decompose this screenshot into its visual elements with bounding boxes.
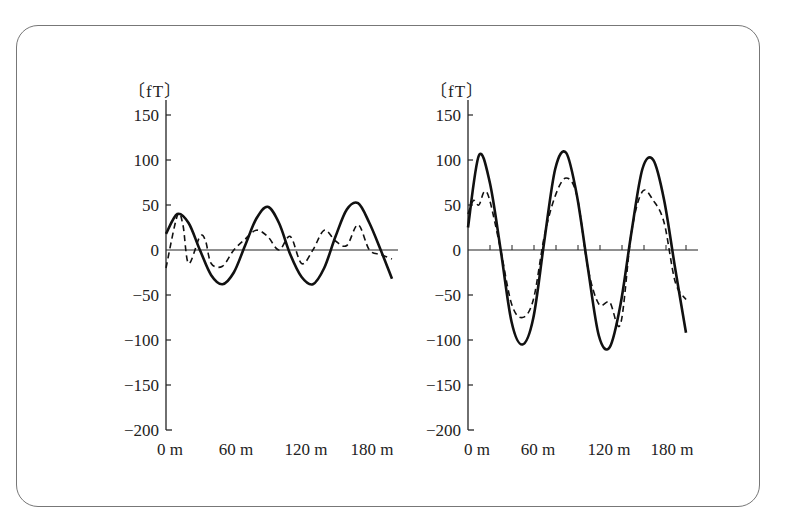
y-tick-label: −150: [124, 376, 159, 395]
y-tick-label: −100: [426, 331, 461, 350]
right-chart: 〔fT〕150100500−50−100−150−2000 m60 m120 m…: [426, 82, 698, 459]
y-tick-label: −200: [426, 421, 461, 440]
y-tick-label: 150: [436, 106, 462, 125]
left-chart: 〔fT〕150100500−50−100−150−2000 m60 m120 m…: [124, 82, 398, 459]
y-tick-label: 50: [142, 196, 159, 215]
x-tick-label: 120 m: [588, 440, 631, 459]
y-tick-label: 150: [134, 106, 160, 125]
x-tick-label: 120 m: [285, 440, 328, 459]
y-tick-label: 100: [134, 151, 160, 170]
x-tick-label: 60 m: [219, 440, 253, 459]
y-unit-label: 〔fT〕: [430, 82, 484, 101]
y-tick-label: −100: [124, 331, 159, 350]
chart-canvas: 〔fT〕150100500−50−100−150−2000 m60 m120 m…: [0, 0, 791, 532]
y-unit-label: 〔fT〕: [128, 82, 182, 101]
y-tick-label: −50: [434, 286, 461, 305]
y-tick-label: −200: [124, 421, 159, 440]
solid-line-series: [166, 202, 392, 284]
x-tick-label: 0 m: [464, 440, 490, 459]
x-tick-label: 60 m: [521, 440, 555, 459]
y-tick-label: −50: [132, 286, 159, 305]
y-tick-label: 50: [444, 196, 461, 215]
x-tick-label: 180 m: [651, 440, 694, 459]
x-tick-label: 0 m: [157, 440, 183, 459]
y-tick-label: 100: [436, 151, 462, 170]
y-tick-label: −150: [426, 376, 461, 395]
x-tick-label: 180 m: [351, 440, 394, 459]
y-tick-label: 0: [453, 241, 462, 260]
y-tick-label: 0: [151, 241, 160, 260]
